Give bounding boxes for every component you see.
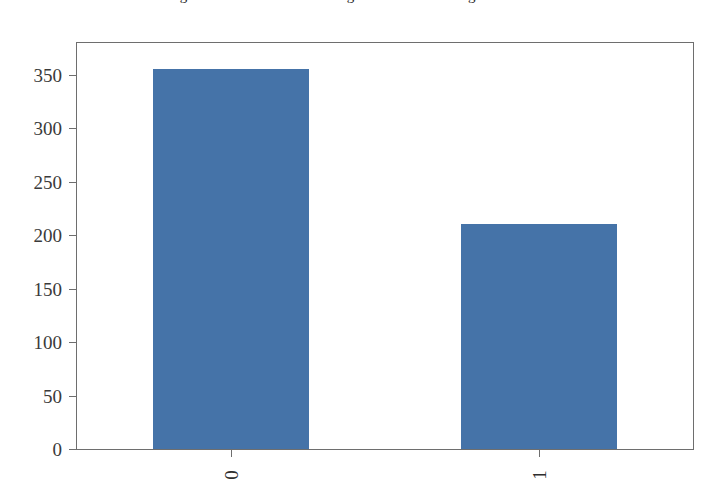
y-axis-tick-label: 250 — [34, 172, 63, 194]
clipped-caption-text: Figure: distribution of the target varia… — [0, 0, 721, 4]
y-axis-tick: 100 — [69, 342, 77, 343]
y-axis-tick: 250 — [69, 182, 77, 183]
y-axis-tick: 300 — [69, 128, 77, 129]
chart-axes-frame: 05010015020025030035001 — [76, 42, 694, 450]
y-axis-tick-label: 300 — [34, 118, 63, 140]
y-axis-tick-label: 100 — [34, 332, 63, 354]
x-axis-tick-label: 1 — [530, 465, 550, 485]
y-axis-tick-label: 50 — [43, 386, 62, 408]
y-axis-tick: 200 — [69, 235, 77, 236]
y-axis-tick-label: 200 — [34, 225, 63, 247]
y-axis-tick: 0 — [69, 449, 77, 450]
chart-plot-area: 05010015020025030035001 — [77, 43, 693, 449]
y-axis-tick: 350 — [69, 75, 77, 76]
y-axis-tick-label: 0 — [53, 439, 63, 461]
y-axis-tick: 150 — [69, 289, 77, 290]
bar-0 — [153, 69, 309, 449]
bar-1 — [461, 224, 617, 449]
x-axis-tick: 1 — [539, 449, 540, 457]
x-axis-tick-label: 0 — [222, 465, 242, 485]
figure-container: Figure: distribution of the target varia… — [0, 0, 721, 501]
clipped-caption-strip: Figure: distribution of the target varia… — [0, 0, 721, 14]
y-axis-tick: 50 — [69, 396, 77, 397]
y-axis-tick-label: 150 — [34, 279, 63, 301]
y-axis-tick-label: 350 — [34, 65, 63, 87]
x-axis-tick: 0 — [231, 449, 232, 457]
